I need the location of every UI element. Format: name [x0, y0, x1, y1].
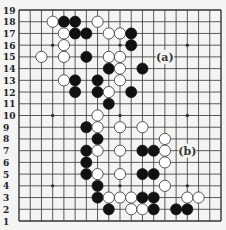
black-stone: [92, 75, 103, 86]
black-stone: [126, 28, 137, 39]
row-label: 9: [3, 123, 9, 133]
black-stone: [148, 145, 159, 156]
black-stone: [70, 75, 81, 86]
hoshi-point: [51, 43, 54, 46]
white-stone: [193, 192, 204, 203]
black-stone: [103, 204, 114, 215]
black-stone: [103, 63, 114, 74]
white-stone: [182, 192, 193, 203]
white-stone: [137, 204, 148, 215]
white-stone: [103, 28, 114, 39]
black-stone: [137, 63, 148, 74]
white-stone: [92, 110, 103, 121]
hoshi-point: [118, 43, 121, 46]
hoshi-point: [51, 184, 54, 187]
black-stone: [137, 192, 148, 203]
white-stone: [114, 28, 125, 39]
white-stone: [114, 51, 125, 62]
annotation-label: (a): [156, 51, 174, 64]
hoshi-point: [186, 43, 189, 46]
row-label: 10: [3, 111, 16, 121]
row-label: 4: [3, 181, 9, 191]
row-label: 15: [3, 52, 16, 62]
white-stone: [47, 16, 58, 27]
white-stone: [114, 122, 125, 133]
row-label: 1: [3, 217, 9, 227]
white-stone: [159, 133, 170, 144]
white-stone: [114, 192, 125, 203]
black-stone: [126, 40, 137, 51]
white-stone: [103, 86, 114, 97]
black-stone: [81, 122, 92, 133]
row-label: 8: [3, 134, 9, 144]
row-label: 6: [3, 158, 9, 168]
black-stone: [182, 204, 193, 215]
white-stone: [159, 157, 170, 168]
white-stone: [58, 75, 69, 86]
white-stone: [126, 204, 137, 215]
white-stone: [92, 16, 103, 27]
white-stone: [58, 28, 69, 39]
white-stone: [114, 145, 125, 156]
white-stone: [126, 192, 137, 203]
black-stone: [148, 192, 159, 203]
hoshi-point: [51, 114, 54, 117]
hoshi-point: [186, 114, 189, 117]
black-stone: [81, 157, 92, 168]
white-stone: [58, 40, 69, 51]
black-stone: [92, 180, 103, 191]
row-label: 14: [3, 64, 16, 74]
row-label: 2: [3, 205, 9, 215]
white-stone: [114, 169, 125, 180]
row-label: 12: [3, 88, 16, 98]
black-stone: [81, 28, 92, 39]
row-labels: 19181716151413121110987654321: [3, 6, 16, 227]
black-stone: [148, 169, 159, 180]
hoshi-point: [186, 184, 189, 187]
black-stone: [126, 86, 137, 97]
white-stone: [103, 192, 114, 203]
row-label: 5: [3, 170, 9, 180]
black-stone: [92, 192, 103, 203]
black-stone: [70, 16, 81, 27]
black-stone: [148, 204, 159, 215]
white-stone: [137, 122, 148, 133]
black-stone: [92, 86, 103, 97]
black-stone: [81, 145, 92, 156]
black-stone: [58, 16, 69, 27]
white-stone: [36, 51, 47, 62]
row-label: 7: [3, 146, 9, 156]
white-stone: [92, 122, 103, 133]
black-stone: [81, 51, 92, 62]
black-stone: [81, 169, 92, 180]
row-label: 11: [3, 99, 16, 109]
black-stone: [171, 204, 182, 215]
black-stone: [137, 169, 148, 180]
black-stone: [92, 133, 103, 144]
black-stone: [137, 145, 148, 156]
row-label: 19: [3, 6, 16, 16]
black-stone: [103, 98, 114, 109]
white-stone: [114, 63, 125, 74]
annotation-label: (b): [178, 145, 196, 158]
row-label: 18: [3, 17, 16, 27]
white-stone: [58, 51, 69, 62]
hoshi-point: [118, 114, 121, 117]
hoshi-point: [118, 184, 121, 187]
row-label: 3: [3, 193, 9, 203]
white-stone: [92, 169, 103, 180]
white-stone: [114, 75, 125, 86]
go-board: 19181716151413121110987654321 (a)(b): [0, 0, 226, 230]
black-stone: [70, 86, 81, 97]
row-label: 13: [3, 76, 16, 86]
white-stone: [159, 180, 170, 191]
white-stone: [92, 145, 103, 156]
black-stone: [70, 28, 81, 39]
white-stone: [159, 145, 170, 156]
row-label: 16: [3, 41, 16, 51]
row-label: 17: [3, 29, 16, 39]
white-stone: [103, 51, 114, 62]
